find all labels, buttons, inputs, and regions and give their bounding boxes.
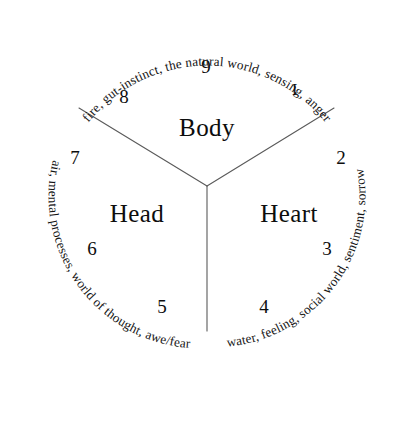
center-label-head: Head — [110, 200, 164, 227]
point-number-9: 9 — [201, 56, 211, 77]
enneagram-centers-diagram: fire, gut-instinct, the natural world, s… — [0, 0, 414, 436]
point-number-3: 3 — [322, 238, 332, 259]
point-number-6: 6 — [87, 238, 97, 259]
point-number-8: 8 — [119, 86, 129, 107]
point-number-1: I — [292, 81, 298, 98]
center-label-body: Body — [179, 114, 235, 141]
arc-label-head-text: air, mental processes, world of thought,… — [46, 159, 192, 351]
diagram-canvas: fire, gut-instinct, the natural world, s… — [0, 0, 414, 436]
point-number-4: 4 — [259, 296, 269, 317]
center-label-heart: Heart — [260, 200, 318, 227]
arc-label-heart: water, feeling, social world, sentiment,… — [226, 167, 369, 349]
point-number-2: 2 — [336, 147, 346, 168]
point-number-7: 7 — [70, 147, 80, 168]
arc-label-heart-text: water, feeling, social world, sentiment,… — [226, 167, 369, 349]
point-number-5: 5 — [157, 296, 167, 317]
arc-label-head: air, mental processes, world of thought,… — [46, 159, 192, 351]
